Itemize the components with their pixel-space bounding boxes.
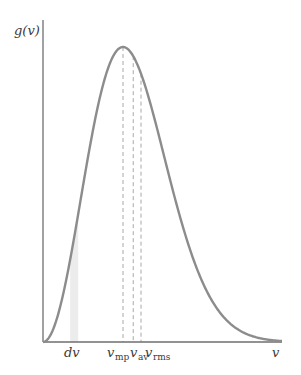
maxwell-distribution-chart: g(v) v dv v mp v av v rms: [0, 0, 301, 375]
svg-text:mp: mp: [115, 352, 130, 362]
svg-text:v: v: [130, 345, 138, 360]
x-axis-label: v: [272, 345, 280, 360]
svg-text:rms: rms: [153, 352, 171, 362]
v-rms-label: v rms: [145, 345, 171, 362]
dv-label: dv: [64, 345, 80, 360]
svg-text:v: v: [145, 345, 153, 360]
svg-text:v: v: [107, 345, 115, 360]
distribution-curve: [43, 47, 282, 342]
y-axis-label: g(v): [14, 23, 40, 38]
v-mp-label: v mp: [107, 345, 130, 362]
